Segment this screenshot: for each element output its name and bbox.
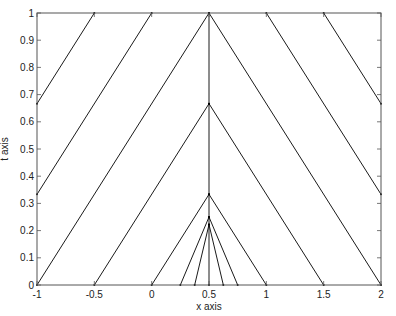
y-tick-label: 0.7: [20, 89, 34, 100]
y-tick-label: 0.6: [20, 116, 34, 127]
x-tick-label: 1: [264, 289, 270, 300]
endpoint-marker: [208, 216, 210, 218]
y-tick-label: 0.2: [20, 225, 34, 236]
series-line-char-right-2: [266, 13, 381, 194]
series-line-char-left-6: [180, 217, 209, 285]
y-tick-label: 0.8: [20, 62, 34, 73]
y-tick-label: 0.1: [20, 252, 34, 263]
y-axis-label: t axis: [0, 137, 10, 160]
series-line-char-left-2: [37, 13, 152, 194]
x-tick-label: -1: [33, 289, 42, 300]
x-tick-label: 1.5: [317, 289, 331, 300]
series-line-char-right-1: [324, 13, 381, 104]
y-tick-label: 0.5: [20, 144, 34, 155]
series-line-char-right-3: [209, 13, 381, 285]
plot-lines: [36, 12, 382, 286]
series-line-char-right-5: [209, 194, 266, 285]
x-tick-label: 0: [149, 289, 155, 300]
x-tick-label: 0.5: [202, 289, 216, 300]
y-tick-label: 1: [28, 8, 34, 19]
characteristics-chart: -1-0.500.511.52 00.10.20.30.40.50.60.70.…: [0, 0, 396, 316]
y-tick-label: 0.4: [20, 171, 34, 182]
y-tick-label: 0: [28, 280, 34, 291]
x-axis-ticks: -1-0.500.511.52: [33, 13, 385, 300]
endpoint-marker: [208, 193, 210, 195]
x-tick-label: 2: [378, 289, 384, 300]
series-line-char-right-6: [209, 217, 238, 285]
endpoint-marker: [208, 224, 210, 226]
series-line-char-left-5: [152, 194, 209, 285]
y-tick-label: 0.3: [20, 198, 34, 209]
x-axis-label: x axis: [196, 301, 222, 312]
series-line-char-left-3: [37, 13, 209, 285]
endpoint-marker: [208, 103, 210, 105]
y-axis-ticks: 00.10.20.30.40.50.60.70.80.91: [20, 8, 381, 291]
x-tick-label: -0.5: [86, 289, 104, 300]
series-line-char-left-1: [37, 13, 94, 104]
y-tick-label: 0.9: [20, 35, 34, 46]
